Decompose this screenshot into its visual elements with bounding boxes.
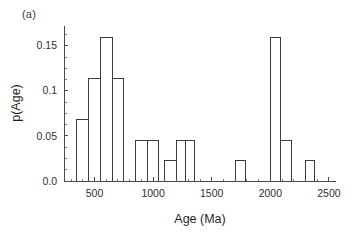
y-tick-label: 0.0 <box>42 175 57 187</box>
histogram-figure: (a) 5001000150020002500 0.00.050.10.15 A… <box>0 0 360 236</box>
histogram-bar <box>136 140 148 181</box>
y-tick-label: 0.05 <box>37 130 58 142</box>
histogram-bar <box>270 38 281 181</box>
histogram-bar <box>112 78 124 181</box>
x-tick-label: 2500 <box>317 187 341 199</box>
histogram-bar <box>186 140 194 181</box>
x-ticks-group <box>71 177 329 181</box>
y-ticks-group <box>64 35 68 181</box>
y-axis-title: p(Age) <box>9 84 23 122</box>
histogram-bar <box>306 160 315 181</box>
x-tick-label: 1000 <box>141 187 165 199</box>
x-axis-title: Age (Ma) <box>174 212 225 226</box>
histogram-bar <box>165 160 177 181</box>
y-tick-label: 0.1 <box>42 84 57 96</box>
x-tick-labels: 5001000150020002500 <box>86 187 341 199</box>
histogram-bar <box>147 140 159 181</box>
y-tick-labels: 0.00.050.10.15 <box>37 39 58 186</box>
age-probability-histogram: 5001000150020002500 0.00.050.10.15 Age (… <box>0 0 360 236</box>
histogram-bar <box>77 120 89 181</box>
bars-group <box>77 38 315 181</box>
x-tick-label: 1500 <box>200 187 224 199</box>
histogram-bar <box>89 78 101 181</box>
histogram-bar <box>100 38 112 181</box>
x-tick-label: 2000 <box>259 187 283 199</box>
histogram-bar <box>177 140 186 181</box>
axes-group <box>64 26 336 181</box>
y-tick-label: 0.15 <box>37 39 58 51</box>
x-tick-label: 500 <box>86 187 104 199</box>
histogram-bar <box>235 160 246 181</box>
histogram-bar <box>281 140 292 181</box>
